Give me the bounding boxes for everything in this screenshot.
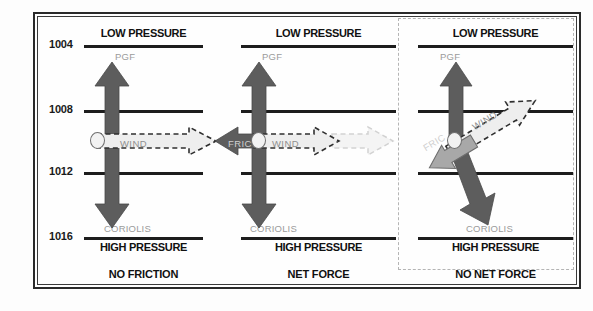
panel3-caption: NO NET FORCE <box>418 268 573 280</box>
pressure-tick-1012: 1012 <box>49 165 73 177</box>
pressure-tick-1016: 1016 <box>49 230 73 242</box>
panel2-high-pressure-label: HIGH PRESSURE <box>241 241 396 253</box>
panel3-pgf-label: PGF <box>440 51 460 62</box>
panel1-caption: NO FRICTION <box>84 268 203 280</box>
panel1-high-pressure-label: HIGH PRESSURE <box>84 241 203 253</box>
panel2-friction-label: FRIC <box>228 138 252 149</box>
isobar-1004-panel2 <box>241 45 396 48</box>
panel2-wind-label: WIND <box>272 138 299 149</box>
panel1-air-parcel <box>90 132 105 149</box>
panel1-pgf-label: PGF <box>115 51 135 62</box>
isobar-1016-panel3 <box>418 237 573 240</box>
panel1-wind-label: WIND <box>120 138 147 149</box>
panel2-ghost-wind-arrow <box>332 127 394 155</box>
pressure-tick-1008: 1008 <box>49 103 73 115</box>
panel3-low-pressure-label: LOW PRESSURE <box>418 27 573 39</box>
panel3-air-parcel <box>447 132 462 149</box>
panel2-pgf-label: PGF <box>262 51 282 62</box>
panel3-high-pressure-label: HIGH PRESSURE <box>418 241 573 253</box>
isobar-1016-panel2 <box>241 237 396 240</box>
panel1-low-pressure-label: LOW PRESSURE <box>84 27 203 39</box>
pressure-tick-1004: 1004 <box>49 38 73 50</box>
panel2-low-pressure-label: LOW PRESSURE <box>241 27 396 39</box>
diagram-canvas: 1004 1008 1012 1016 LOW PRESSURE HIGH PR… <box>0 0 593 311</box>
panel2-air-parcel <box>251 132 266 149</box>
panel2-caption: NET FORCE <box>241 268 396 280</box>
isobar-1016-panel1 <box>84 237 203 240</box>
isobar-1004-panel1 <box>84 45 203 48</box>
isobar-1004-panel3 <box>418 45 573 48</box>
panel1-wind-arrow <box>97 127 217 155</box>
